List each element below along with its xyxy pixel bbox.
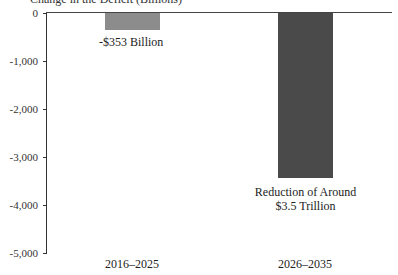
y-tick-label: -4,000 <box>10 199 38 211</box>
y-tick <box>43 253 47 254</box>
y-tick <box>43 13 47 14</box>
y-tick-label: 0 <box>33 7 39 19</box>
chart-title: Change in the Deficit (Billions) <box>30 0 182 7</box>
y-axis <box>46 13 47 253</box>
y-tick <box>43 109 47 110</box>
bar2-annotation-line2: $3.5 Trillion <box>248 199 363 213</box>
bar-2026-2035 <box>278 13 333 178</box>
x-category-label: 2016–2025 <box>105 257 159 272</box>
bar2-annotation-line1: Reduction of Around <box>248 185 363 199</box>
bar1-annotation: -$353 Billion <box>99 35 163 49</box>
y-tick-label: -3,000 <box>10 151 38 163</box>
bar-2016-2025 <box>105 13 160 30</box>
y-tick-label: -1,000 <box>10 55 38 67</box>
bar2-annotation: Reduction of Around $3.5 Trillion <box>248 185 363 213</box>
x-axis-zero-line <box>46 12 392 13</box>
y-tick-label: -5,000 <box>10 247 38 259</box>
x-category-label: 2026–2035 <box>278 257 332 272</box>
y-tick-label: -2,000 <box>10 103 38 115</box>
y-tick <box>43 157 47 158</box>
y-tick <box>43 205 47 206</box>
y-tick <box>43 61 47 62</box>
